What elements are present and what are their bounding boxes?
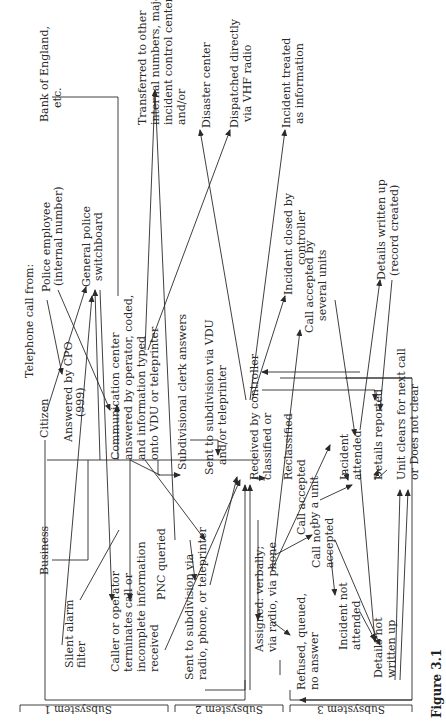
svg-text:Call accepted byseveral units: Call accepted byseveral units	[303, 240, 329, 333]
node-subdivisional-clerk: Subdivisional clerk answers	[176, 314, 189, 470]
subsystem-3-label: Subsystem 3	[317, 704, 385, 716]
svg-text:Incident treatedas information: Incident treatedas information	[280, 38, 306, 128]
node-telephone-header: Telephone call from:	[23, 264, 36, 378]
node-details-reported: Details reported	[372, 389, 385, 480]
svg-text:Transferred to otherinternal n: Transferred to otherinternal numbers, ma…	[136, 0, 188, 125]
figure-caption: Figure 3.1	[430, 649, 444, 718]
node-communication-center: Communication centeranswered by operator…	[109, 295, 161, 460]
node-citizen: Citizen	[38, 399, 51, 438]
flowchart-figure: Subsystem 1 Subsystem 2 Subsystem 3 Bank…	[0, 0, 446, 722]
node-incident-information: Incident treatedas information	[280, 38, 306, 128]
svg-text:Police employee(internal numbe: Police employee(internal number)	[40, 187, 65, 292]
svg-text:Incident notattended: Incident notattended	[337, 582, 363, 650]
svg-text:Details notwritten up: Details notwritten up	[372, 617, 398, 678]
node-sent-vdu: Sent to subdivision via VDUand/or telepr…	[203, 319, 229, 475]
svg-text:Silent alarmfilter: Silent alarmfilter	[63, 599, 88, 668]
svg-text:Caller or operatorterminates c: Caller or operatorterminates call orinco…	[109, 541, 161, 672]
node-disaster-center: Disaster center	[200, 41, 213, 128]
node-pnc-queried: PNC queried	[155, 528, 168, 600]
svg-text:Subsystem 1: Subsystem 1	[44, 704, 112, 716]
svg-text:Sent to subdivision via VDUand: Sent to subdivision via VDUand/or telepr…	[203, 319, 229, 475]
node-sent-radio: Sent to subdivision viaradio, phone, or …	[183, 527, 209, 680]
node-transferred: Transferred to otherinternal numbers, ma…	[136, 0, 188, 125]
svg-text:Incidentattended: Incidentattended	[338, 430, 364, 480]
svg-text:Communication centeranswered b: Communication centeranswered by operator…	[109, 295, 161, 460]
node-unit-clears: Unit clears for next callor Does not cle…	[395, 348, 421, 480]
svg-text:Subdivisional clerk answers: Subdivisional clerk answers	[176, 314, 189, 470]
svg-text:Subsystem 3: Subsystem 3	[317, 704, 385, 716]
svg-text:Details reported: Details reported	[372, 389, 385, 480]
node-general-switchboard: General policeswitchboard	[80, 206, 105, 287]
node-incident-not-attended: Incident notattended	[337, 582, 363, 650]
node-silent-alarm: Silent alarmfilter	[63, 599, 88, 668]
svg-text:General policeswitchboard: General policeswitchboard	[80, 206, 105, 287]
node-caller-terminates: Caller or operatorterminates call orinco…	[109, 541, 161, 672]
node-call-accepted-unit: Call acceptedby a unit	[295, 459, 321, 535]
svg-text:Refused, queued,no answer: Refused, queued,no answer	[295, 593, 321, 690]
svg-text:Business: Business	[38, 525, 51, 575]
node-details-not-written: Details notwritten up	[372, 617, 398, 678]
svg-text:Call acceptedby a unit: Call acceptedby a unit	[295, 459, 321, 535]
node-call-accepted-several: Call accepted byseveral units	[303, 240, 329, 333]
svg-text:Telephone call from:: Telephone call from:	[23, 264, 36, 378]
node-reclassified: Reclassified	[282, 413, 295, 480]
flowchart-canvas: Subsystem 1 Subsystem 2 Subsystem 3 Bank…	[0, 0, 446, 722]
svg-text:Disaster center: Disaster center	[200, 41, 213, 128]
svg-text:Figure 3.1: Figure 3.1	[430, 649, 444, 718]
svg-text:Assigned: verbally;via radio,: Assigned: verbally;via radio, via phone	[253, 542, 279, 653]
subsystem-2-label: Subsystem 2	[195, 704, 263, 716]
node-dispatched-vhf: Dispatched directlyvia VHF radio	[228, 18, 254, 128]
svg-text:Details written up(record crea: Details written up(record created)	[375, 179, 401, 280]
svg-text:Sent to subdivision viaradio,: Sent to subdivision viaradio, phone, or …	[183, 527, 209, 680]
node-business: Business	[38, 525, 51, 575]
svg-text:Call notaccepted: Call notaccepted	[310, 518, 336, 568]
node-details-written-up: Details written up(record created)	[375, 179, 401, 280]
svg-text:Dispatched directlyvia VHF rad: Dispatched directlyvia VHF radio	[228, 18, 254, 128]
svg-text:Bank of England,etc.: Bank of England,etc.	[38, 26, 64, 122]
svg-text:Citizen: Citizen	[38, 399, 51, 438]
svg-text:Unit clears for next callor Do: Unit clears for next callor Does not cle…	[395, 348, 421, 480]
svg-text:Reclassified: Reclassified	[282, 413, 295, 480]
node-assigned: Assigned: verbally;via radio, via phone	[253, 542, 279, 653]
node-bank-of-england: Bank of England,etc.	[38, 26, 64, 122]
subsystem-1-label: Subsystem 1	[44, 704, 112, 716]
svg-text:Subsystem 2: Subsystem 2	[195, 704, 263, 716]
node-call-not-accepted: Call notaccepted	[310, 518, 336, 568]
node-police-employee: Police employee(internal number)	[40, 187, 65, 292]
node-answered-cpo: Answered by CPO(999)	[62, 342, 87, 444]
svg-text:PNC queried: PNC queried	[155, 528, 168, 600]
node-incident-attended: Incidentattended	[338, 430, 364, 480]
svg-text:Answered by CPO(999): Answered by CPO(999)	[62, 342, 87, 444]
node-refused: Refused, queued,no answer	[295, 593, 321, 690]
